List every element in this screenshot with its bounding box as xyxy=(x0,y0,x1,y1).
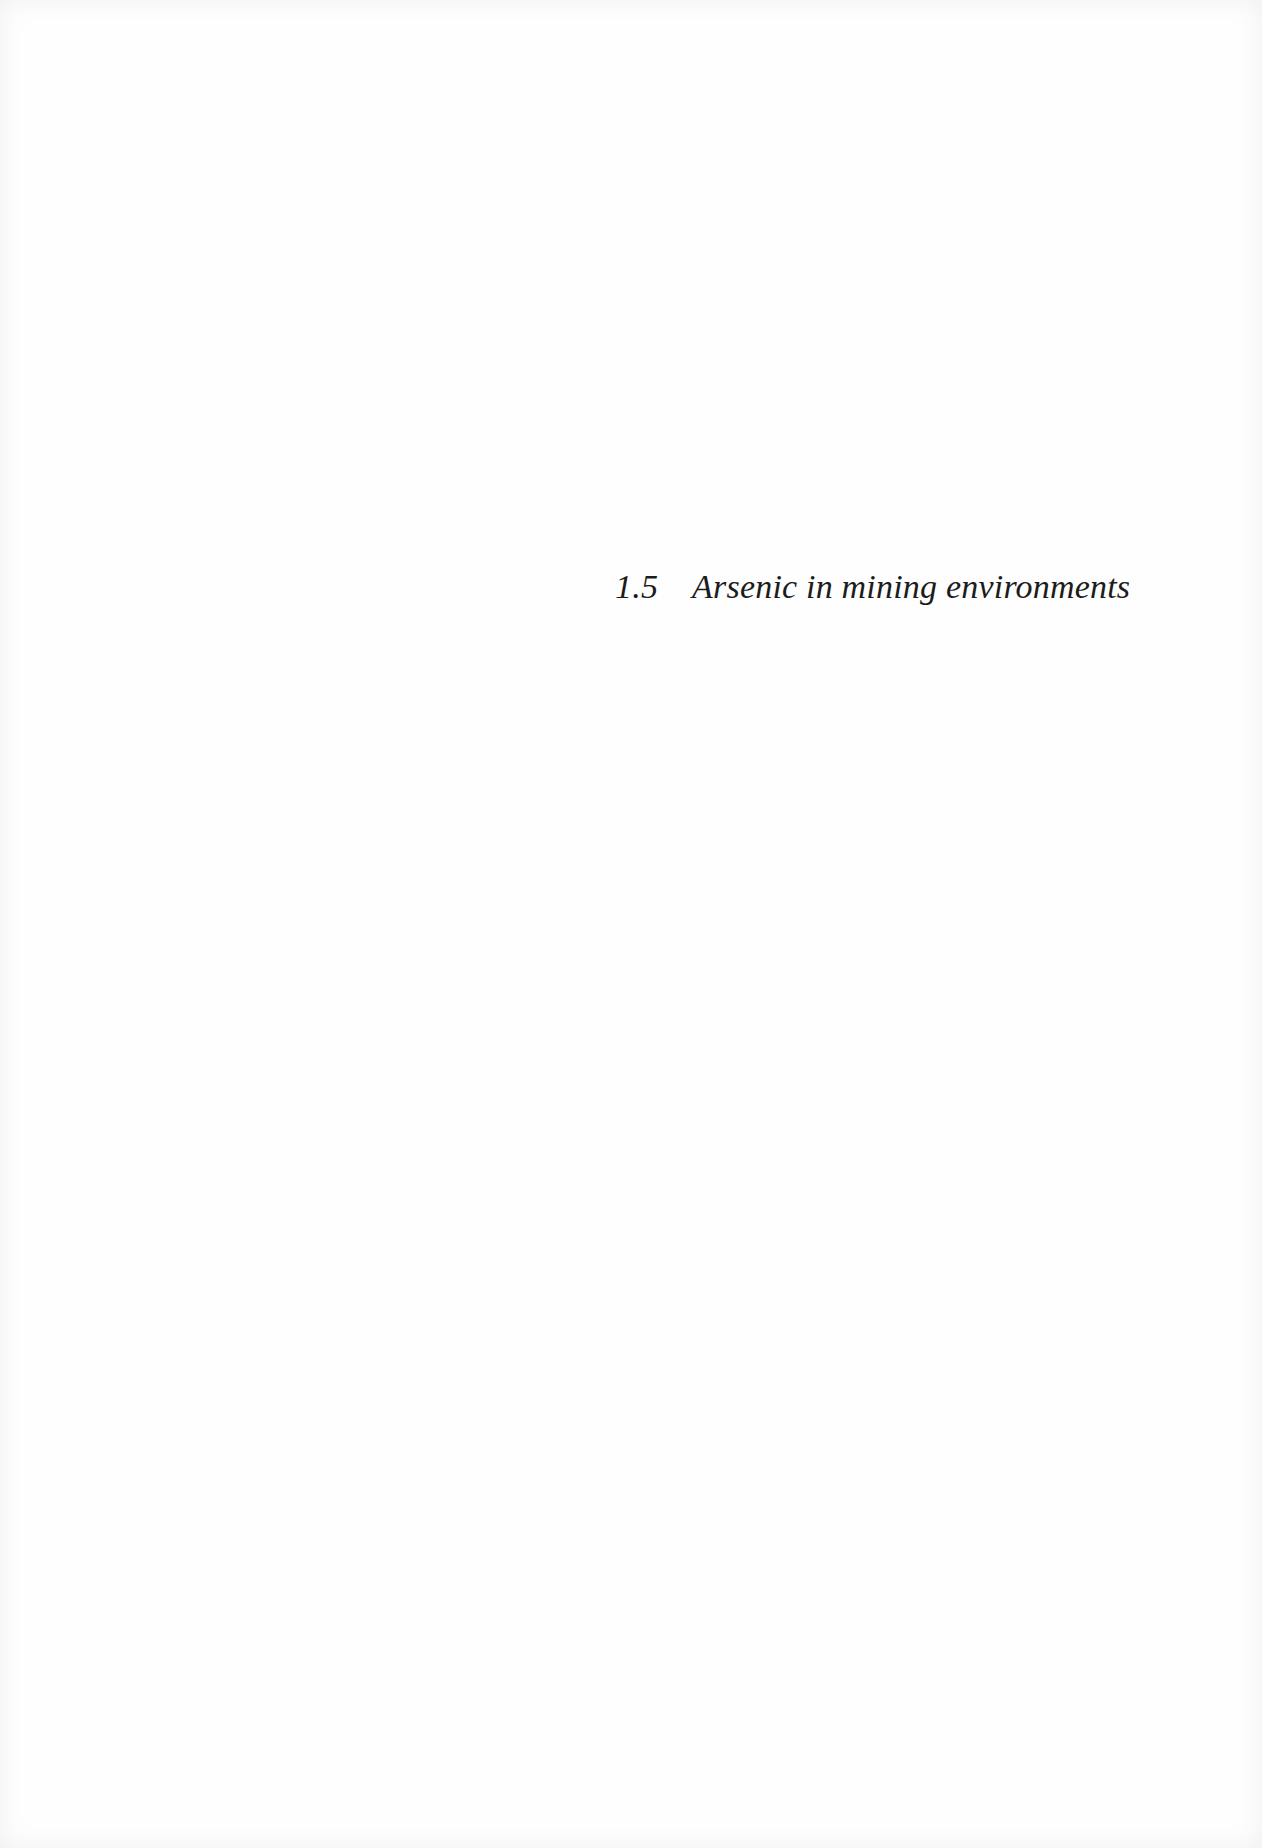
section-heading: 1.5Arsenic in mining environments xyxy=(615,568,1130,606)
document-page: 1.5Arsenic in mining environments xyxy=(0,0,1262,1848)
section-number: 1.5 xyxy=(615,568,658,606)
section-title: Arsenic in mining environments xyxy=(692,568,1130,605)
